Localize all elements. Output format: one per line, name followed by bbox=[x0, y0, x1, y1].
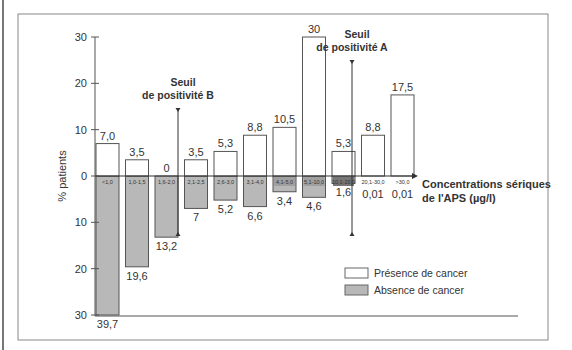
data-label-absence: 4,6 bbox=[306, 200, 321, 212]
legend-swatch-presence bbox=[345, 268, 368, 278]
y-tick-label: 20 bbox=[75, 263, 87, 275]
data-label-absence: 5,2 bbox=[218, 203, 233, 215]
bar-absence-0 bbox=[96, 176, 119, 315]
threshold-label-line-1: Seuil bbox=[170, 76, 195, 88]
data-label-presence: 0 bbox=[163, 162, 169, 174]
x-axis-title-line-1: Concentrations sériques bbox=[422, 178, 551, 190]
data-label-presence: 10,5 bbox=[274, 113, 295, 125]
data-label-presence: 17,5 bbox=[392, 81, 413, 93]
threshold-label-line-2: de positivité A bbox=[316, 41, 388, 53]
threshold-label-line-1: Seuil bbox=[344, 28, 369, 40]
bar-presence-0 bbox=[96, 144, 119, 176]
data-label-absence: 6,6 bbox=[247, 210, 262, 222]
x-axis-arrow-icon bbox=[412, 173, 418, 179]
category-label: <1,0 bbox=[102, 179, 113, 185]
threshold-label-line-2: de positivité B bbox=[142, 89, 214, 101]
data-label-absence: 0,01 bbox=[362, 188, 383, 200]
category-label: 1,6-2,0 bbox=[158, 179, 175, 185]
legend-swatch-absence bbox=[345, 285, 368, 295]
data-label-absence: 13,2 bbox=[156, 240, 177, 252]
bar-presence-5 bbox=[244, 135, 267, 176]
data-label-presence: 30 bbox=[308, 23, 320, 35]
data-label-presence: 8,8 bbox=[365, 121, 380, 133]
bar-presence-6 bbox=[273, 127, 296, 176]
category-label: 5,1-10,0 bbox=[304, 179, 324, 185]
legend: Présence de cancer Absence de cancer bbox=[345, 267, 468, 296]
data-label-presence: 5,3 bbox=[218, 137, 233, 149]
y-tick-label: 20 bbox=[75, 77, 87, 89]
y-tick-label: 10 bbox=[75, 124, 87, 136]
bar-presence-7 bbox=[303, 37, 326, 176]
bar-presence-1 bbox=[126, 160, 149, 176]
bar-presence-10 bbox=[391, 95, 414, 176]
data-label-absence: 19,6 bbox=[126, 270, 147, 282]
category-label: 20,1-30,0 bbox=[361, 179, 384, 185]
data-label-presence: 3,5 bbox=[188, 146, 203, 158]
threshold-arrow-up-icon bbox=[350, 232, 355, 236]
data-label-absence: 7 bbox=[193, 211, 199, 223]
x-axis-title-line-2: de l'APS (µg/l) bbox=[422, 192, 496, 204]
data-label-absence: 39,7 bbox=[97, 318, 118, 330]
category-label: 2,6-3,0 bbox=[217, 179, 234, 185]
legend-label-absence: Absence de cancer bbox=[374, 284, 464, 296]
data-label-absence: 1,6 bbox=[336, 186, 351, 198]
category-label: 3,1-4,0 bbox=[246, 179, 263, 185]
chart: 3020100102030 <1,07,039,71,0-1,53,519,61… bbox=[0, 0, 572, 350]
category-label: 1,0-1,5 bbox=[128, 179, 145, 185]
bar-absence-1 bbox=[126, 176, 149, 267]
y-tick-label: 30 bbox=[75, 31, 87, 43]
bar-presence-4 bbox=[214, 151, 237, 176]
bar-presence-3 bbox=[185, 160, 208, 176]
bar-absence-2 bbox=[155, 176, 178, 237]
data-label-absence: 3,4 bbox=[277, 195, 292, 207]
legend-label-presence: Présence de cancer bbox=[374, 267, 468, 279]
y-tick-label: 30 bbox=[75, 309, 87, 321]
data-label-presence: 7,0 bbox=[100, 130, 115, 142]
data-label-presence: 3,5 bbox=[129, 146, 144, 158]
category-label: 4,1-5,0 bbox=[276, 179, 293, 185]
y-tick-label: 10 bbox=[75, 216, 87, 228]
category-label: 2,1-2,5 bbox=[187, 179, 204, 185]
y-axis-title: % patients bbox=[56, 150, 68, 202]
data-label-absence: 0,01 bbox=[392, 188, 413, 200]
data-label-presence: 8,8 bbox=[247, 121, 262, 133]
y-tick-label: 0 bbox=[81, 170, 87, 182]
threshold-arrow-down-icon bbox=[350, 60, 355, 64]
category-label: >30,0 bbox=[396, 179, 410, 185]
threshold-arrow-down-icon bbox=[176, 108, 181, 112]
data-label-presence: 5,3 bbox=[336, 137, 351, 149]
absence-bars bbox=[96, 176, 355, 315]
bar-presence-9 bbox=[362, 135, 385, 176]
